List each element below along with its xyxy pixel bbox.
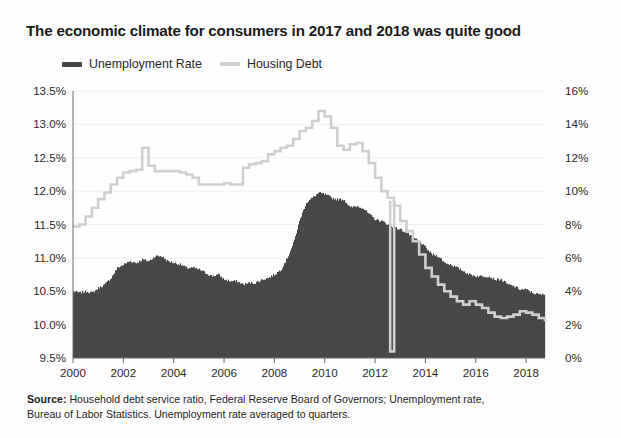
left-axis-tick-label: 13.0%: [33, 117, 66, 130]
left-axis-tick-label: 12.5%: [33, 151, 66, 164]
right-axis-tick-label: 14%: [565, 117, 588, 130]
left-axis-tick-label: 11.5%: [34, 218, 66, 231]
right-axis-tick-label: 12%: [565, 151, 588, 164]
source-label: Source:: [27, 393, 66, 405]
line-swatch-icon: [220, 62, 240, 66]
chart-plot-area: 9.5%10.0%10.5%11.0%11.5%12.0%12.5%13.0%1…: [0, 80, 621, 380]
left-axis-tick-label: 10.0%: [33, 318, 66, 331]
line-swatch-icon: [62, 62, 82, 67]
legend-label-housing: Housing Debt: [247, 57, 322, 71]
x-axis-tick-label: 2018: [513, 366, 539, 379]
chart-page: The economic climate for consumers in 20…: [0, 0, 621, 438]
x-axis-tick-label: 2000: [60, 366, 86, 379]
legend-item-housing[interactable]: Housing Debt: [220, 57, 322, 71]
x-axis-tick-label: 2004: [161, 366, 187, 379]
x-axis-tick-label: 2012: [362, 366, 388, 379]
right-axis-tick-label: 16%: [565, 84, 588, 97]
left-axis-tick-label: 12.0%: [33, 184, 66, 197]
right-axis-tick-label: 6%: [565, 251, 582, 264]
x-axis-tick-label: 2002: [110, 366, 136, 379]
left-axis-tick-label: 11.0%: [34, 251, 66, 264]
x-axis-tick-label: 2016: [463, 366, 489, 379]
page-title: The economic climate for consumers in 20…: [26, 22, 606, 40]
right-axis-tick-label: 0%: [565, 351, 582, 364]
left-axis-tick-label: 13.5%: [33, 84, 66, 97]
legend-label-unemployment: Unemployment Rate: [89, 57, 202, 71]
right-axis-tick-label: 8%: [565, 218, 582, 231]
chart-series: [73, 111, 545, 358]
x-axis-tick-label: 2010: [312, 366, 338, 379]
x-axis-tick-label: 2014: [413, 366, 439, 379]
source-note: Source: Household debt service ratio, Fe…: [27, 392, 497, 423]
right-axis-tick-label: 2%: [565, 318, 582, 331]
right-axis-tick-label: 10%: [565, 184, 588, 197]
x-axis-tick-label: 2006: [211, 366, 237, 379]
source-text: Household debt service ratio, Federal Re…: [27, 393, 485, 420]
left-axis-tick-label: 9.5%: [40, 351, 66, 364]
chart-legend: Unemployment Rate Housing Debt: [62, 57, 322, 71]
legend-item-unemployment[interactable]: Unemployment Rate: [62, 57, 202, 71]
right-axis-tick-label: 4%: [565, 284, 582, 297]
x-axis-tick-label: 2008: [261, 366, 287, 379]
left-axis-tick-label: 10.5%: [33, 284, 66, 297]
